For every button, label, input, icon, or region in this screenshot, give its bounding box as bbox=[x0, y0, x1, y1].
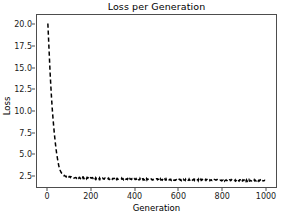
y-tick-mark bbox=[32, 46, 35, 47]
chart-title: Loss per Generation bbox=[36, 1, 277, 12]
y-tick-mark bbox=[32, 132, 35, 133]
y-tick-label: 10.0 bbox=[14, 106, 32, 115]
x-tick-mark bbox=[222, 188, 223, 191]
y-tick-label: 2.5 bbox=[19, 171, 32, 180]
chart-figure: Loss per Generation 2.55.07.510.012.515.… bbox=[0, 0, 290, 221]
x-tick-mark bbox=[90, 188, 91, 191]
y-tick-mark bbox=[32, 154, 35, 155]
x-axis-tick-labels: 02004006008001000 bbox=[36, 188, 277, 204]
x-tick-mark bbox=[46, 188, 47, 191]
y-tick-label: 7.5 bbox=[19, 128, 32, 137]
x-tick-label: 600 bbox=[171, 192, 186, 201]
y-tick-mark bbox=[32, 89, 35, 90]
y-tick-label: 12.5 bbox=[14, 85, 32, 94]
y-tick-mark bbox=[32, 110, 35, 111]
x-tick-mark bbox=[134, 188, 135, 191]
loss-line bbox=[48, 24, 265, 182]
y-tick-label: 15.0 bbox=[14, 63, 32, 72]
y-tick-label: 20.0 bbox=[14, 20, 32, 29]
x-tick-label: 400 bbox=[127, 192, 142, 201]
x-tick-mark bbox=[266, 188, 267, 191]
x-tick-mark bbox=[178, 188, 179, 191]
y-tick-label: 5.0 bbox=[19, 150, 32, 159]
x-tick-label: 0 bbox=[44, 192, 49, 201]
y-tick-label: 17.5 bbox=[14, 42, 32, 51]
plot-area bbox=[36, 14, 277, 188]
loss-curve-svg bbox=[37, 15, 276, 187]
y-tick-mark bbox=[32, 175, 35, 176]
y-axis-label: Loss bbox=[2, 86, 12, 126]
x-tick-label: 200 bbox=[83, 192, 98, 201]
y-tick-mark bbox=[32, 67, 35, 68]
x-tick-label: 800 bbox=[215, 192, 230, 201]
x-tick-label: 1000 bbox=[256, 192, 276, 201]
y-tick-mark bbox=[32, 24, 35, 25]
x-axis-label: Generation bbox=[36, 203, 277, 213]
